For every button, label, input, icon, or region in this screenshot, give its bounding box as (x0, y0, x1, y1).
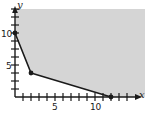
x-tick-label-10: 10 (90, 103, 101, 112)
vertex-point-12-0 (109, 95, 114, 100)
y-tick-label-10: 10 (1, 30, 12, 39)
vertex-point-2-3 (29, 71, 34, 76)
y-axis-label: y (17, 0, 23, 10)
plot-area (0, 0, 145, 116)
shaded-feasible-region (15, 9, 145, 97)
x-tick-label-5: 5 (52, 103, 58, 112)
vertex-point-0-8 (13, 31, 18, 36)
feasible-region-chart: 10 5 5 10 y x (0, 0, 145, 116)
y-tick-label-5: 5 (6, 62, 12, 71)
x-axis-label: x (139, 90, 145, 100)
